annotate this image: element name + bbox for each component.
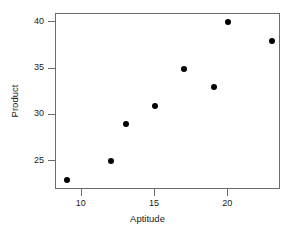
y-tick-label: 35 (34, 63, 44, 72)
y-axis-label: Product (8, 13, 22, 189)
y-tick-mark (48, 21, 55, 22)
y-tick-mark (48, 68, 55, 69)
data-point (225, 19, 231, 25)
x-tick-label: 20 (222, 199, 232, 208)
y-tick-mark (48, 114, 55, 115)
data-point (269, 38, 275, 44)
data-point (211, 84, 217, 90)
x-tick-mark (81, 189, 82, 196)
plot-panel (55, 13, 280, 189)
x-tick-label: 15 (149, 199, 159, 208)
y-tick-mark (48, 160, 55, 161)
data-point (123, 121, 129, 127)
x-tick-label: 10 (76, 199, 86, 208)
data-point (152, 103, 158, 109)
y-tick-label: 30 (34, 109, 44, 118)
x-axis-label: Aptitude (0, 213, 295, 224)
data-point (64, 177, 70, 183)
y-tick-label: 25 (34, 156, 44, 165)
x-tick-mark (227, 189, 228, 196)
scatter-plot: 25303540 101520 Product Aptitude (0, 0, 295, 233)
data-point (108, 158, 114, 164)
data-point (181, 66, 187, 72)
y-tick-label: 40 (34, 17, 44, 26)
x-tick-mark (154, 189, 155, 196)
